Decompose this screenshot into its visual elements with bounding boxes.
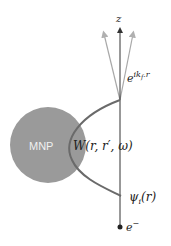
z-axis-label: z [115, 13, 122, 24]
interaction-label: W(r, r′, ω) [73, 139, 133, 153]
scattered-ray-right [120, 34, 133, 100]
incident-wave-label: ψi(r) [129, 190, 156, 206]
electron-label: e− [126, 219, 139, 234]
scattered-wave-label: eikf.r [127, 70, 151, 85]
diagram-canvas: MNP z eikf.r W(r, r′, ω) ψi(r) e− [0, 0, 171, 246]
electron-dot [118, 225, 123, 230]
mnp-label: MNP [29, 140, 53, 152]
scattered-ray-left [104, 34, 120, 100]
diagram-svg: MNP z eikf.r W(r, r′, ω) ψi(r) e− [0, 0, 171, 246]
